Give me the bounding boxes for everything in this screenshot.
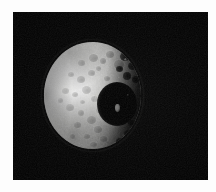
moon-body	[44, 42, 141, 149]
astronomy-photo	[13, 12, 208, 180]
terminator-shadow	[44, 42, 141, 149]
scene-description: spacecraft image of an airless, heavily …	[0, 0, 1, 1]
moon-disc	[44, 42, 141, 149]
page-background: spacecraft image of an airless, heavily …	[0, 0, 216, 192]
